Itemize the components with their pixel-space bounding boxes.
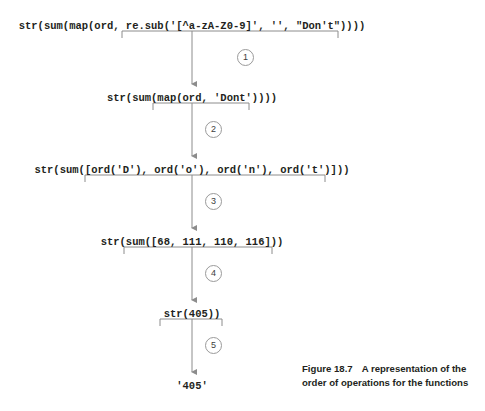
bracket-step-3 bbox=[85, 175, 325, 182]
code-line-step-1: str(sum(map(ord, re.sub('[^a-zA-Z0-9]', … bbox=[19, 20, 366, 32]
bracket-step-5 bbox=[160, 319, 222, 326]
step-number-1: 1 bbox=[237, 49, 254, 66]
code-line-step-4: str(sum([68, 111, 110, 116])) bbox=[101, 236, 284, 248]
step-number-5: 5 bbox=[205, 337, 222, 354]
code-line-step-5: str(405)) bbox=[164, 308, 221, 320]
figure-caption-label: Figure 18.7 bbox=[302, 363, 353, 374]
bracket-step-2 bbox=[153, 103, 249, 110]
bracket-step-1 bbox=[122, 31, 338, 38]
code-line-step-3: str(sum([ord('D'), ord('o'), ord('n'), o… bbox=[34, 164, 349, 176]
code-line-result: '405' bbox=[176, 380, 208, 392]
step-number-2: 2 bbox=[205, 121, 222, 138]
figure-diagram: str(sum(map(ord, re.sub('[^a-zA-Z0-9]', … bbox=[0, 0, 485, 411]
step-number-4: 4 bbox=[205, 265, 222, 282]
code-line-step-2: str(sum(map(ord, 'Dont')))) bbox=[107, 92, 277, 104]
figure-caption: Figure 18.7A representation of the order… bbox=[302, 362, 482, 389]
step-number-3: 3 bbox=[205, 193, 222, 210]
bracket-step-4 bbox=[124, 247, 272, 254]
